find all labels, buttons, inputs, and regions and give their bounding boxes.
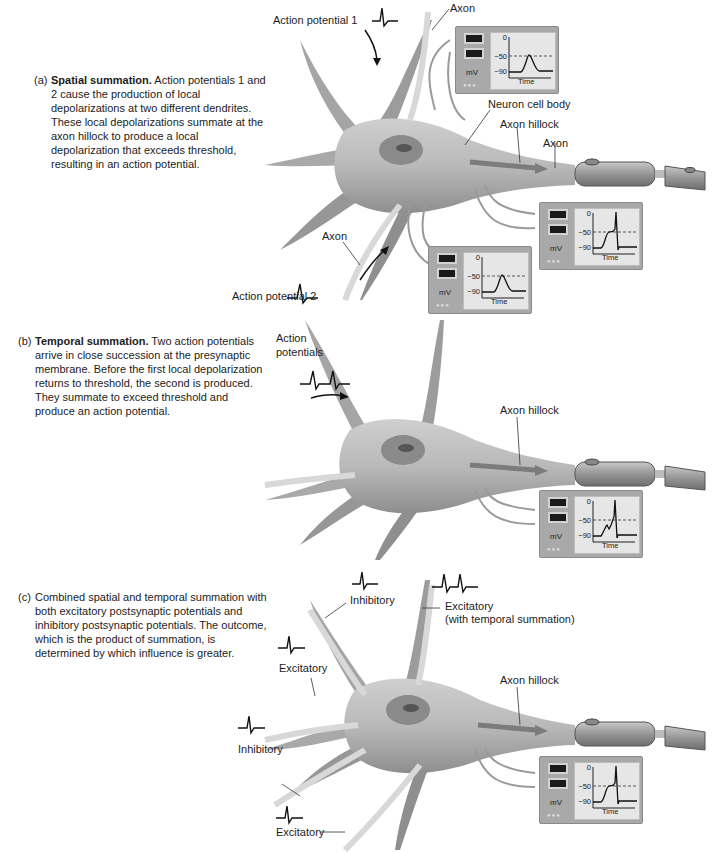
label-axon-hillock-c: Axon hillock (500, 674, 559, 686)
label-axon-top: Axon (450, 2, 475, 14)
unit-label: mV (466, 68, 478, 77)
label-action-potential-2: Action potential 2 (232, 290, 316, 302)
electrode-slot-2 (464, 48, 484, 59)
label-action-potentials-2: potentials (276, 346, 323, 358)
label-inhibitory-top: Inhibitory (350, 594, 395, 606)
label-axon-hillock: Axon hillock (500, 118, 559, 130)
oscilloscope-dendrite-1: mV ●●● 0 −50 −90 Time (455, 26, 559, 94)
label-excitatory-left: Excitatory (279, 662, 327, 674)
label-action-potentials-1: Action (276, 332, 307, 344)
label-axon-bottom: Axon (322, 230, 347, 242)
label-axon-hillock-b: Axon hillock (500, 404, 559, 416)
oscilloscope-axon-hillock-b: mV ●●● 0 −50 −90 Time (539, 490, 643, 558)
label-neuron-cell-body: Neuron cell body (488, 98, 571, 110)
panel-combined-summation: (c) Combined spatial and temporal summat… (0, 560, 719, 852)
excitatory-potential-icon-2 (276, 806, 303, 823)
label-inhibitory-left: Inhibitory (238, 743, 283, 755)
inhibitory-potential-icon-2 (238, 716, 265, 733)
label-action-potential-1: Action potential 1 (273, 14, 357, 26)
action-potential-1-icon (372, 8, 398, 26)
panel-spatial-summation: (a) Spatial summation. Action potentials… (0, 0, 719, 310)
inhibitory-potential-icon (352, 572, 378, 589)
indicator-dots: ●●● (463, 82, 477, 88)
oscilloscope-axon-hillock-c: mV ●●● 0 −50 −90 Time (539, 756, 643, 824)
label-excitatory-bottom: Excitatory (276, 826, 324, 838)
oscilloscope-dendrite-2: mV ●●● 0 −50 −90 Time (428, 246, 532, 314)
label-axon-right: Axon (543, 137, 568, 149)
oscilloscope-axon-hillock: mV ●●● 0 −50 −90 Time (539, 202, 643, 270)
panel-temporal-summation: (b) Temporal summation. Two action poten… (0, 310, 719, 560)
label-with-temporal-summation: (with temporal summation) (445, 613, 575, 625)
excitatory-potential-icon (278, 636, 305, 653)
electrode-slot-1 (464, 33, 484, 44)
label-excitatory-temporal: Excitatory (445, 600, 493, 612)
excitatory-temporal-potential-icon (432, 574, 478, 592)
